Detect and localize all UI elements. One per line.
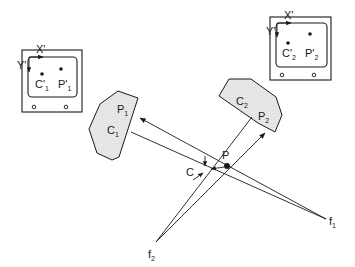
stereo-camera-diagram: X' Y' C'1 P'1 X' Y' C'2 P'2 P1 C1 C2 P2 xyxy=(0,0,355,267)
image-plane-2-shape xyxy=(219,79,282,132)
ray-f1-c-to-c1 xyxy=(131,132,326,219)
ray-f1-p-to-p1 xyxy=(140,118,326,219)
camera-1-image: X' Y' C'1 P'1 xyxy=(17,43,82,112)
point-p1-prime-dot xyxy=(59,67,63,71)
point-p-dot xyxy=(224,163,230,169)
image-plane-2: C2 P2 xyxy=(219,79,282,132)
camera-2-image: X' Y' C'2 P'2 xyxy=(266,9,331,80)
x-axis-label: X' xyxy=(284,9,293,21)
point-c1-prime-dot xyxy=(40,72,44,76)
label-p: P xyxy=(222,149,229,161)
arrow-up-right-icon xyxy=(193,173,203,180)
image-plane-1: P1 C1 xyxy=(89,91,138,160)
y-axis-label: Y' xyxy=(266,25,275,37)
x-axis-label: X' xyxy=(36,43,45,55)
y-axis-label: Y' xyxy=(17,59,26,71)
label-f2: f2 xyxy=(148,248,155,262)
label-c: C xyxy=(186,166,194,178)
projection-rays xyxy=(131,117,326,242)
point-p2-prime-dot xyxy=(308,32,312,36)
label-f1: f1 xyxy=(329,215,336,229)
point-c2-prime-dot xyxy=(286,41,290,45)
camera-2-sensor xyxy=(276,23,327,67)
ray-f2-p-to-p2 xyxy=(156,133,265,242)
